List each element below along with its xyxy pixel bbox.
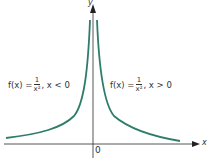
numerator: 1 — [136, 76, 142, 85]
denominator: x² — [135, 85, 142, 93]
x-axis-label: x — [202, 138, 207, 147]
fraction: 1 x² — [135, 76, 142, 93]
y-axis-label: y — [88, 0, 93, 7]
numerator: 1 — [34, 76, 40, 85]
label-prefix: f(x) = — [110, 80, 134, 90]
x-axis-arrow-icon — [192, 141, 200, 147]
label-suffix: , x > 0 — [143, 80, 171, 90]
right-function-label: f(x) = 1 x² , x > 0 — [110, 76, 172, 93]
origin-label: 0 — [95, 145, 101, 155]
label-suffix: , x < 0 — [41, 80, 69, 90]
label-prefix: f(x) = — [8, 80, 32, 90]
denominator: x² — [33, 85, 40, 93]
fraction: 1 x² — [33, 76, 40, 93]
left-function-label: f(x) = 1 x² , x < 0 — [8, 76, 70, 93]
